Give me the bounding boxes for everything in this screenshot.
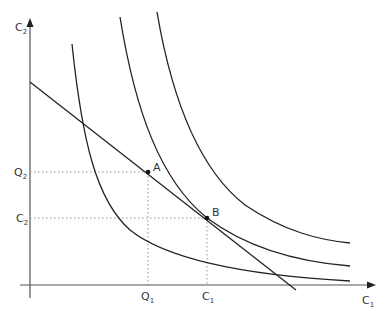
indifference-curve-3 [157,12,350,243]
indifference-curve-1 [72,44,350,281]
x-tick-q1: Q1 [141,290,154,305]
y-axis-label: C2 [15,21,27,36]
indifference-curve-2 [120,17,350,266]
point-b [205,216,210,221]
x-tick-c1: C1 [202,290,214,305]
point-a [146,170,151,175]
x-axis-arrow-icon [367,282,376,289]
y-tick-c2: C2 [16,212,28,227]
indifference-curve-diagram: A B C2 C1 Q2 C2 Q1 C1 [0,0,391,316]
guide-lines [30,172,207,285]
budget-line [30,82,296,290]
y-axis-arrow-icon [27,18,34,27]
x-axis-label: C1 [362,294,374,309]
point-a-label: A [153,161,161,174]
y-tick-q2: Q2 [14,166,27,181]
point-b-label: B [212,206,220,219]
